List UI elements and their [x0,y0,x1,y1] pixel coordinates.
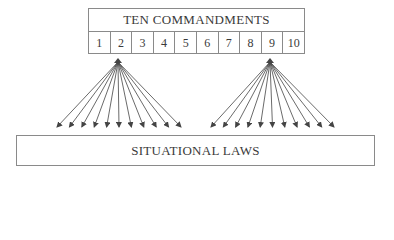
arrow-icon [270,62,309,127]
arrow-icon [118,62,119,127]
arrow-icon [118,62,169,127]
arrow-icon [118,62,144,127]
arrow-icon [118,62,156,127]
arrow-icon [248,62,270,127]
arrow-icon [223,62,270,127]
arrow-icon [118,62,181,127]
situational-laws-title: SITUATIONAL LAWS [131,143,260,159]
arrow-icon [270,62,297,127]
situational-laws-box: SITUATIONAL LAWS [16,135,375,166]
arrow-fan-right [211,58,334,127]
arrow-icon [69,62,118,127]
arrow-icon [270,62,334,127]
arrow-fan-left [57,58,181,127]
arrow-icon [94,62,118,127]
arrow-icon [118,62,131,127]
